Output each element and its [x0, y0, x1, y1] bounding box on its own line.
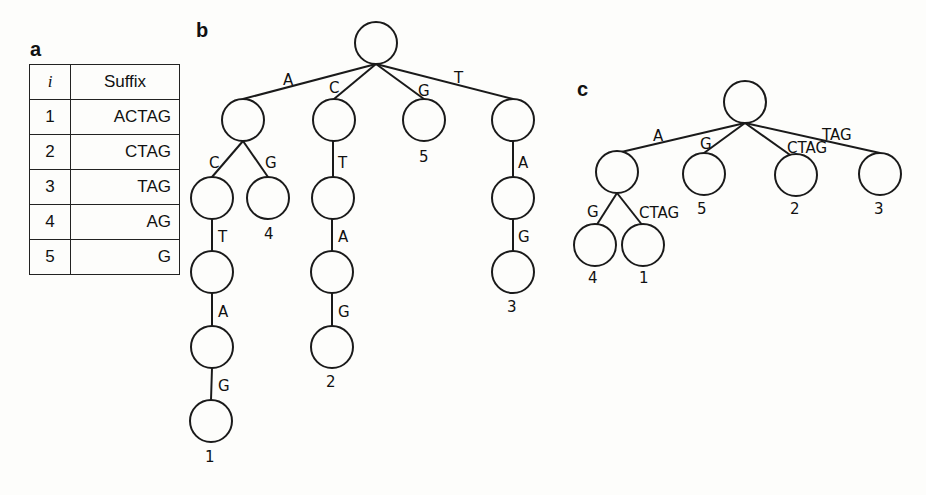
- node-ct: [312, 177, 354, 219]
- node-ctag: [311, 326, 353, 368]
- edge-label: G: [418, 82, 430, 100]
- leaf-label: 1: [639, 269, 649, 287]
- leaf-label: 2: [790, 200, 800, 218]
- edge-label: G: [338, 303, 350, 321]
- leaf-label: 3: [874, 200, 884, 218]
- diagram-canvas: A C G T C G T A G T A G A G 1 2 3 4 5: [0, 0, 926, 495]
- edge-label: C: [329, 79, 339, 97]
- leaf-label: 5: [419, 148, 429, 166]
- edge-label: G: [265, 154, 277, 172]
- node-g: [683, 153, 725, 195]
- node-ta: [492, 177, 534, 219]
- edge-label: G: [518, 228, 530, 246]
- leaf-label: 1: [205, 448, 215, 466]
- edge-label: T: [337, 154, 348, 172]
- edge-label: G: [700, 135, 712, 153]
- leaf-label: 4: [264, 225, 274, 243]
- edge-label: CTAG: [639, 204, 679, 222]
- edge-label: C: [209, 154, 219, 172]
- edge-label: T: [217, 228, 228, 246]
- node-c: [313, 99, 355, 141]
- edge-label: G: [587, 203, 599, 221]
- edge-label: A: [653, 127, 664, 145]
- node-actag: [190, 400, 232, 442]
- node-ag: [574, 224, 616, 266]
- node-tag: [492, 251, 534, 293]
- node-act: [191, 251, 233, 293]
- node-acta: [191, 326, 233, 368]
- edge-label: A: [338, 228, 349, 246]
- edge-label: TAG: [821, 126, 852, 144]
- tree-c-nodes: [574, 81, 901, 266]
- leaf-label: 4: [588, 269, 598, 287]
- node-root: [355, 22, 397, 64]
- node-a: [596, 151, 638, 193]
- node-ag: [247, 177, 289, 219]
- node-a: [222, 99, 264, 141]
- node-t: [492, 99, 534, 141]
- node-actag: [622, 224, 664, 266]
- edge-label: G: [218, 377, 230, 395]
- leaf-label: 3: [507, 298, 517, 316]
- node-tag: [859, 153, 901, 195]
- edge-label: A: [283, 71, 294, 89]
- edge-label: T: [453, 69, 464, 87]
- node-ctag: [775, 154, 817, 196]
- node-g: [403, 99, 445, 141]
- leaf-label: 2: [326, 373, 336, 391]
- node-root: [724, 81, 766, 123]
- leaf-label: 5: [697, 200, 707, 218]
- edge-label: A: [218, 303, 229, 321]
- trie-b-nodes: [190, 22, 534, 442]
- edge-label: A: [518, 154, 529, 172]
- node-cta: [311, 251, 353, 293]
- node-ac: [191, 177, 233, 219]
